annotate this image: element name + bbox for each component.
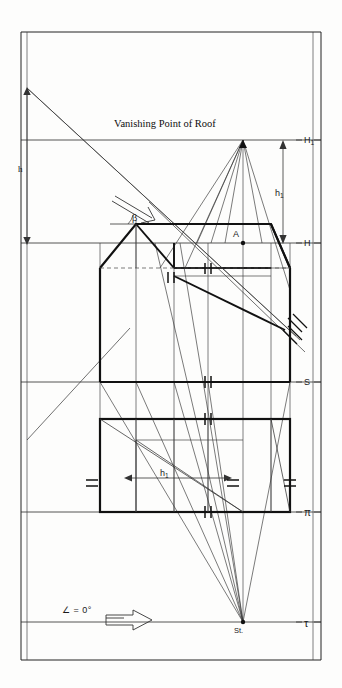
angle-note-label: ∠ = 0° [62, 605, 92, 615]
station-point-marker [241, 620, 245, 624]
point-A-marker [241, 241, 245, 245]
vanishing-point-label: Vanishing Point of Roof [114, 118, 216, 129]
line-label-tau: τ [304, 617, 309, 629]
line-label-H: H [304, 238, 311, 248]
line-label-pi: π [304, 507, 311, 518]
dimension-h-label: h [18, 164, 23, 174]
drawing-canvas: h h1 β [0, 0, 342, 688]
line-label-S: S [304, 377, 310, 387]
station-point-label: St. [234, 626, 243, 635]
point-A-label: A [233, 229, 239, 239]
perspective-drawing-figure: h h1 β [0, 0, 342, 688]
